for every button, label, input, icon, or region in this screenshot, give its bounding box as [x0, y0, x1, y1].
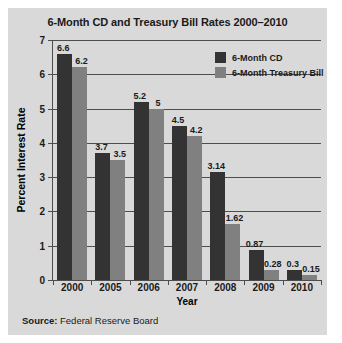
bar-value-label: 5.2 [133, 91, 146, 101]
y-axis-title: Percent Interest Rate [14, 40, 28, 280]
bar[interactable]: 4.5 [172, 126, 187, 280]
bar-value-label: 4.2 [190, 125, 203, 135]
y-tick-label: 3 [39, 172, 45, 183]
bar[interactable]: 6.6 [57, 54, 72, 280]
bar-value-label: 0.28 [264, 259, 282, 269]
bar-value-label: 3.7 [95, 142, 108, 152]
bar[interactable]: 1.62 [225, 224, 240, 280]
legend-swatch-icon [215, 52, 226, 63]
y-tick-label: 2 [39, 206, 45, 217]
bar[interactable]: 3.7 [95, 153, 110, 280]
bar-value-label: 0.87 [246, 239, 264, 249]
x-axis-title: Year [53, 296, 321, 307]
x-axis-tick-labels: 2000200520062007200820092010 [53, 282, 321, 293]
x-tick-label: 2006 [130, 282, 168, 293]
bar[interactable]: 3.5 [110, 160, 125, 280]
legend-item[interactable]: 6-Month CD [215, 52, 324, 63]
bar-value-label: 1.62 [226, 213, 244, 223]
bar-value-label: 4.5 [172, 115, 185, 125]
chart-title: 6-Month CD and Treasury Bill Rates 2000–… [8, 16, 327, 28]
y-tick-label: 6 [39, 69, 45, 80]
bar-value-label: 6.2 [75, 56, 88, 66]
x-tick-mark [321, 280, 322, 285]
legend-label: 6-Month CD [232, 53, 283, 63]
bar-value-label: 5 [155, 98, 160, 108]
legend-label: 6-Month Treasury Bill [232, 68, 324, 78]
bar-value-label: 3.5 [113, 149, 126, 159]
x-tick-label: 2005 [91, 282, 129, 293]
bar[interactable]: 0.87 [249, 250, 264, 280]
bar[interactable]: 0.28 [264, 270, 279, 280]
y-tick-label: 1 [39, 240, 45, 251]
bar-value-label: 6.6 [57, 43, 70, 53]
bar[interactable]: 0.3 [287, 270, 302, 280]
bar-value-label: 0.3 [287, 259, 300, 269]
y-tick-label: 5 [39, 103, 45, 114]
y-tick-label: 7 [39, 35, 45, 46]
bar[interactable]: 3.14 [210, 172, 225, 280]
bar[interactable]: 4.2 [187, 136, 202, 280]
legend-swatch-icon [215, 67, 226, 78]
bar-group: 4.54.2 [168, 40, 206, 280]
legend-item[interactable]: 6-Month Treasury Bill [215, 67, 324, 78]
bar[interactable]: 6.2 [72, 67, 87, 280]
x-tick-label: 2008 [206, 282, 244, 293]
bar-group: 3.73.5 [91, 40, 129, 280]
y-tick-label: 4 [39, 137, 45, 148]
x-tick-label: 2009 [244, 282, 282, 293]
x-tick-label: 2010 [283, 282, 321, 293]
bar[interactable]: 5 [149, 109, 164, 280]
y-tick-label: 0 [39, 275, 45, 286]
x-tick-label: 2000 [53, 282, 91, 293]
source-note: Source: Federal Reserve Board [22, 315, 158, 326]
y-axis-title-text: Percent Interest Rate [15, 107, 27, 212]
bar-group: 6.66.2 [53, 40, 91, 280]
source-value: Federal Reserve Board [57, 315, 158, 326]
chart-figure: 6-Month CD and Treasury Bill Rates 2000–… [8, 8, 327, 335]
x-tick-label: 2007 [168, 282, 206, 293]
bar-value-label: 3.14 [208, 161, 226, 171]
bar-value-label: 0.15 [302, 264, 320, 274]
chart-legend: 6-Month CD6-Month Treasury Bill [215, 52, 324, 82]
bar[interactable]: 5.2 [134, 102, 149, 280]
bar-group: 5.25 [130, 40, 168, 280]
source-label: Source: [22, 315, 57, 326]
